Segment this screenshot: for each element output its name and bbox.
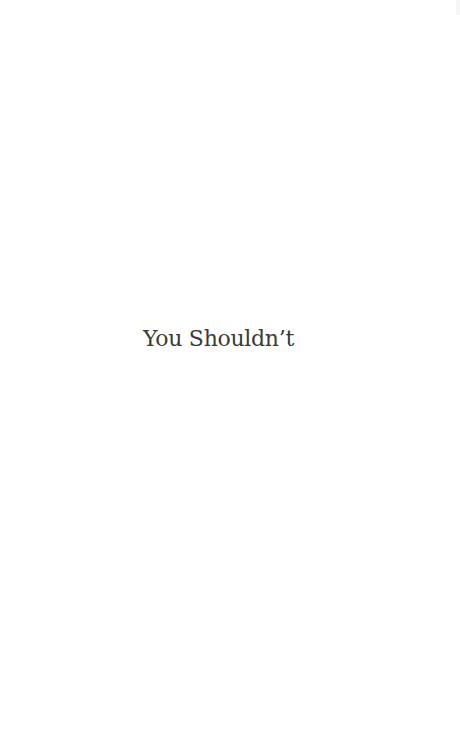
book-page: You Shouldn’t xyxy=(0,0,460,740)
page-edge-strip xyxy=(456,0,460,15)
page-title: You Shouldn’t xyxy=(0,324,437,354)
